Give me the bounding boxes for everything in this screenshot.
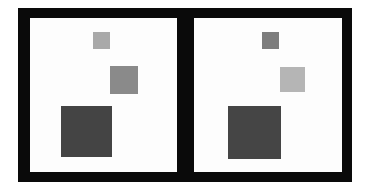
small-square	[262, 32, 279, 49]
figure-frame	[18, 8, 352, 182]
panel-right	[194, 18, 342, 172]
large-square	[228, 106, 281, 159]
medium-square	[110, 66, 138, 94]
large-square	[61, 106, 112, 157]
medium-square	[280, 67, 305, 92]
panel-left	[30, 18, 177, 172]
small-square	[93, 32, 110, 49]
